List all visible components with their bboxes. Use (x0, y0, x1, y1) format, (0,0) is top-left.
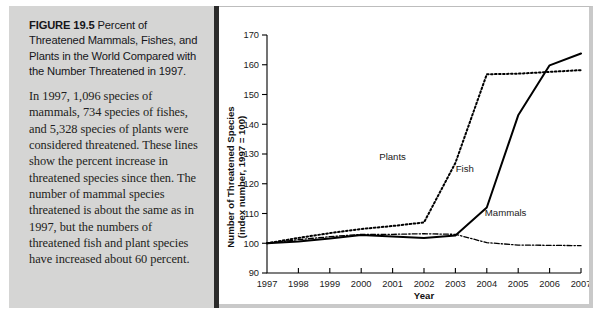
y-axis-title-line1: Number of Threatened Species (225, 106, 236, 247)
x-tick-label: 2002 (414, 279, 435, 289)
y-axis-ticks: 90100110120130140150160170 (243, 30, 267, 278)
caption-panel: FIGURE 19.5 Percent of Threatened Mammal… (9, 6, 214, 308)
x-axis-title: Year (414, 290, 435, 301)
x-tick-label: 1998 (288, 279, 309, 289)
x-tick-label: 2004 (476, 279, 497, 289)
x-axis-ticks: 1997199819992000200120022003200420052006… (257, 268, 589, 289)
chart-series (267, 53, 581, 245)
caption-text-block: FIGURE 19.5 Percent of Threatened Mammal… (29, 18, 201, 267)
series-label-fish: Fish (456, 163, 474, 174)
figure-body-text: In 1997, 1,096 species of mammals, 734 s… (29, 88, 201, 267)
series-line-fish (267, 53, 581, 243)
y-tick-label: 170 (243, 30, 259, 40)
y-tick-label: 160 (243, 60, 259, 70)
x-tick-label: 2003 (445, 279, 466, 289)
x-tick-label: 2001 (382, 279, 403, 289)
line-chart: 90100110120130140150160170 1997199819992… (219, 7, 589, 305)
series-line-plants (267, 70, 581, 243)
x-tick-label: 2000 (351, 279, 372, 289)
x-tick-label: 1999 (319, 279, 340, 289)
y-tick-label: 150 (243, 90, 259, 100)
x-tick-label: 2006 (539, 279, 560, 289)
chart-panel: 90100110120130140150160170 1997199819992… (219, 6, 593, 308)
y-tick-label: 90 (249, 268, 259, 278)
figure-container: FIGURE 19.5 Percent of Threatened Mammal… (0, 0, 611, 314)
x-tick-label: 2007 (571, 279, 589, 289)
chart-series-labels: PlantsFishMammals (379, 151, 526, 219)
series-label-mammals: Mammals (485, 207, 527, 218)
y-tick-label: 100 (243, 239, 259, 249)
figure-number-label: FIGURE 19.5 (29, 19, 95, 31)
x-tick-label: 2005 (508, 279, 529, 289)
figure-heading: FIGURE 19.5 Percent of Threatened Mammal… (29, 18, 201, 79)
x-tick-label: 1997 (257, 279, 278, 289)
y-axis-title-line2: (index number, 1997 = 100) (236, 116, 247, 238)
series-label-plants: Plants (379, 151, 406, 162)
